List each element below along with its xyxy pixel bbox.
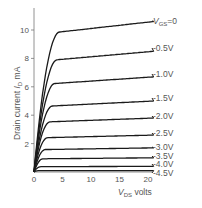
characteristic-curve: [34, 148, 154, 172]
curve-label: VGS=0: [153, 16, 177, 27]
x-tick-label: 15: [115, 175, 124, 184]
x-tick-label: 20: [144, 175, 153, 184]
x-axis-label: VDS volts: [118, 187, 152, 198]
y-tick-label: 10: [20, 26, 29, 35]
curves: [34, 21, 154, 173]
x-tick-label: 5: [60, 175, 65, 184]
y-tick-label: 2: [25, 140, 30, 149]
x-tick-label: 0: [32, 175, 37, 184]
y-tick-label: 6: [25, 83, 30, 92]
curve-labels: VGS=0-0.5V-1.0V-1.5V-2.0V-2.5V-3.0V-3.5V…: [153, 16, 177, 178]
y-ticks: 246810: [20, 26, 34, 149]
curve-label: -4.5V: [153, 168, 174, 178]
curve-label: -2.0V: [153, 111, 174, 121]
y-axis-label: Drain current ID mA: [12, 66, 23, 140]
characteristic-curve: [34, 51, 154, 172]
curve-label: -1.5V: [153, 93, 174, 103]
curve-label: -0.5V: [153, 43, 174, 53]
curve-label: -1.0V: [153, 69, 174, 79]
characteristic-curve: [34, 118, 154, 172]
curve-label: -2.5V: [153, 128, 174, 138]
y-tick-label: 8: [25, 54, 30, 63]
jfet-output-characteristics-chart: 246810 05101520 VGS=0-0.5V-1.0V-1.5V-2.0…: [0, 0, 202, 208]
x-ticks: 05101520: [32, 175, 153, 184]
y-tick-label: 4: [25, 111, 30, 120]
x-tick-label: 10: [87, 175, 96, 184]
characteristic-curve: [34, 158, 154, 172]
